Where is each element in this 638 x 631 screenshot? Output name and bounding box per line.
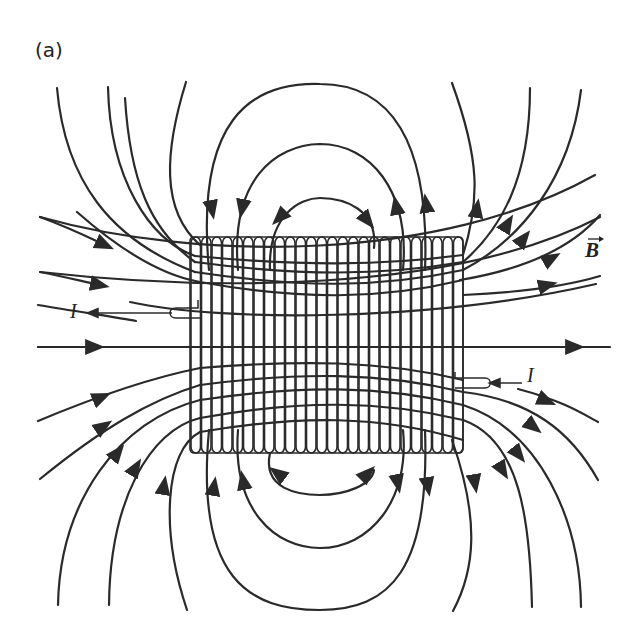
magnetic-field-label: B [585, 238, 599, 263]
solenoid-coil [190, 237, 463, 453]
current-label-right: I [527, 364, 534, 387]
vector-arrow-icon [587, 234, 607, 244]
field-lines-svg [0, 0, 638, 631]
current-label-left: I [70, 300, 77, 323]
solenoid-field-diagram: (a) [0, 0, 638, 631]
